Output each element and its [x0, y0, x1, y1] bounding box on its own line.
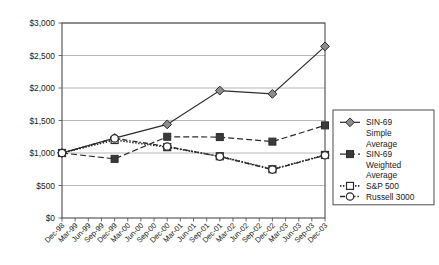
data-point-marker: [347, 182, 354, 189]
legend-label-sin69-simple-average: Simple: [366, 128, 392, 138]
line-chart: $0$500$1,000$1,500$2,000$2,500$3,000 Dec…: [0, 0, 439, 265]
series-russell-3000: [58, 135, 328, 174]
x-axis-tick-labels: Dec-98Mar-99Jun-99Sep-99Dec-99Mar-00Jun-…: [43, 221, 330, 245]
legend-label-russell-3000: Russell 3000: [366, 192, 415, 202]
y-axis-label: $500: [36, 181, 55, 191]
data-point-marker: [111, 135, 118, 142]
y-axis-label: $1,500: [29, 116, 55, 126]
y-axis-label: $3,000: [29, 18, 55, 28]
data-point-marker: [111, 155, 118, 162]
data-point-marker: [215, 86, 224, 95]
series-line: [62, 140, 325, 169]
legend-label-sin69-weighted-average: Average: [366, 170, 397, 180]
data-point-marker: [321, 152, 328, 159]
y-axis-label: $2,500: [29, 51, 55, 61]
y-axis-label: $0: [46, 213, 56, 223]
data-point-marker: [216, 153, 223, 160]
data-series: [58, 42, 330, 173]
data-point-marker: [346, 193, 353, 200]
data-point-marker: [164, 133, 171, 140]
data-point-marker: [163, 120, 172, 129]
data-point-marker: [269, 166, 276, 173]
data-point-marker: [58, 149, 65, 156]
y-axis-label: $2,000: [29, 83, 55, 93]
axes: [59, 23, 326, 222]
chart-legend: SIN-69SimpleAverageSIN-69WeightedAverage…: [333, 110, 434, 205]
legend-label-sin69-simple-average: Average: [366, 139, 397, 149]
series-sin-69-simple-average: [58, 42, 330, 157]
data-point-marker: [164, 143, 171, 150]
y-axis-tick-labels: $0$500$1,000$1,500$2,000$2,500$3,000: [29, 18, 55, 223]
data-point-marker: [347, 151, 354, 158]
legend-label-sin69-simple-average: SIN-69: [366, 117, 392, 127]
gridlines: [62, 23, 325, 186]
chart-canvas: $0$500$1,000$1,500$2,000$2,500$3,000 Dec…: [0, 0, 439, 265]
data-point-marker: [322, 122, 329, 129]
legend-label-sp-500: S&P 500: [366, 181, 399, 191]
data-point-marker: [269, 138, 276, 145]
data-point-marker: [216, 134, 223, 141]
legend-label-sin69-weighted-average: SIN-69: [366, 149, 392, 159]
y-axis-label: $1,000: [29, 148, 55, 158]
legend-label-sin69-weighted-average: Weighted: [366, 160, 402, 170]
